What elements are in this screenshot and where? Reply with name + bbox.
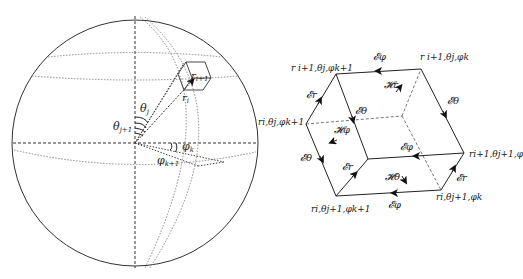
vertex-right: ri+1,θj+1,φ [469,149,523,159]
vertex-bottom-right: ri,θj+1,φk [436,192,482,202]
field-h-phi: 𝓗φ [334,124,350,135]
field-h-theta: 𝓗θ [385,171,400,182]
edge-e-theta-inner: 𝓔θ [355,105,367,116]
theta-j1-arc [135,133,143,136]
sphere: ri+1 ri θj θj+1 φk φk+1 [12,16,258,268]
vertex-top-right: i+1,θj,φk [427,52,469,62]
edge-e-phi-top: 𝓔φ [373,51,386,62]
vertex-top-right-r: r [420,52,425,62]
edge-e-phi-bottom: 𝓔φ [388,199,401,210]
theta-j-arc [135,117,148,123]
ray-phi [198,162,224,166]
edge-e-r-left: 𝓔r [306,89,318,100]
edge-e-phi-mid: 𝓔φ [400,141,413,152]
svg-text:φk+1: φk+1 [157,154,179,168]
svg-text:φk: φk [182,140,194,154]
vertex-bottom-left: ri,θj+1,φk+1 [311,204,370,214]
edge-e-theta-left: 𝓔θ [300,152,312,163]
svg-text:θj+1: θj+1 [113,120,132,134]
svg-text:ri+1: ri+1 [191,70,208,83]
edge-e-r-right: 𝓔r [456,172,468,183]
cube-labels: i+1,θj,φk+1 r i+1,θj,φk r ri,θj,φk+1 ri+… [258,51,523,214]
edge-e-r-inner: 𝓔r [342,161,354,172]
diagram-canvas: ri+1 ri θj θj+1 φk φk+1 [0,0,523,279]
field-h-r: 𝓗r [384,79,399,90]
svg-text:θj: θj [140,102,150,116]
edge-e-theta-right: 𝓔θ [447,95,459,106]
phi-arc [175,143,177,152]
vertex-top-left: i+1,θj,φk+1 [298,63,353,73]
vertex-top-left-r: r [291,63,296,73]
phi-arc [170,143,172,150]
theta-j1-arc [135,128,145,132]
vertex-mid-left: ri,θj,φk+1 [258,117,304,127]
ray-phi [135,143,224,162]
